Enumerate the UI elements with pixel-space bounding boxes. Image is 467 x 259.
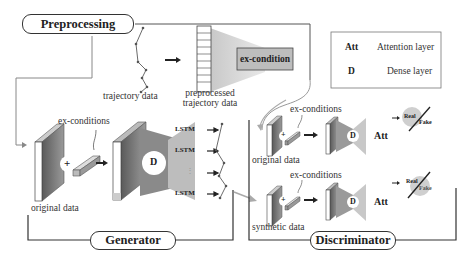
trajectory-data-icon — [135, 27, 149, 94]
legend: Att Attention layer D Dense layer — [331, 32, 441, 88]
lstm-label-1: LSTM — [175, 125, 195, 133]
disc-bottom-output-fake: Fake — [419, 185, 432, 191]
output-trajectory-icon — [215, 123, 228, 200]
disc-bottom-plus: + — [281, 195, 286, 204]
generator-original-data-block — [35, 124, 64, 201]
preprocessed-label-line2: trajectory data — [183, 98, 238, 108]
discriminator-frame-right — [395, 188, 456, 240]
lstm-label-3: LSTM — [175, 189, 195, 197]
generator-plus-symbol: + — [64, 157, 70, 169]
generator-dense-symbol: D — [150, 156, 157, 167]
lstm-label-2: LSTM — [175, 146, 195, 154]
disc-top-ex-conditions-label: ex-conditions — [290, 104, 342, 114]
disc-top-att: Att — [374, 130, 388, 141]
synthetic-flow-arrow — [234, 192, 257, 202]
disc-bottom-ex-conditions-label: ex-conditions — [290, 170, 342, 180]
preprocessed-label: preprocessed trajectory data — [178, 88, 242, 108]
disc-bottom-input-label: synthetic data — [252, 222, 305, 232]
legend-att-symbol: Att — [345, 42, 358, 52]
generator-title: Generator — [90, 231, 176, 250]
generator-ex-condition-bar — [73, 130, 108, 176]
generator-ex-conditions-label: ex-conditions — [58, 116, 110, 126]
disc-top-dense: D — [350, 131, 356, 140]
legend-d-symbol: D — [348, 66, 355, 76]
preprocessing-title: Preprocessing — [22, 14, 134, 34]
disc-top-plus: + — [281, 130, 286, 139]
generator-original-data-label: original data — [31, 203, 79, 213]
lstm-ellipsis: ⋮ — [186, 166, 194, 175]
discriminator-title: Discriminator — [310, 231, 396, 250]
legend-d-desc: Dense layer — [387, 66, 432, 76]
lstm-arrows — [207, 128, 218, 196]
disc-top-output-real: Real — [404, 113, 416, 119]
preprocessed-label-line1: preprocessed — [185, 88, 235, 98]
disc-bottom-output-real: Real — [406, 178, 418, 184]
disc-bottom-att: Att — [374, 196, 388, 207]
generator-frame-left — [28, 215, 90, 240]
ex-condition-box: ex-condition — [237, 48, 293, 70]
disc-top-output-fake: Fake — [419, 119, 432, 125]
legend-att-desc: Attention layer — [377, 42, 434, 52]
trajectory-data-label: trajectory data — [103, 91, 158, 101]
disc-top-input-label: original data — [252, 155, 300, 165]
disc-bottom-dense: D — [350, 197, 356, 206]
arrow-icon — [165, 57, 181, 63]
generator-frame-right — [175, 190, 233, 240]
